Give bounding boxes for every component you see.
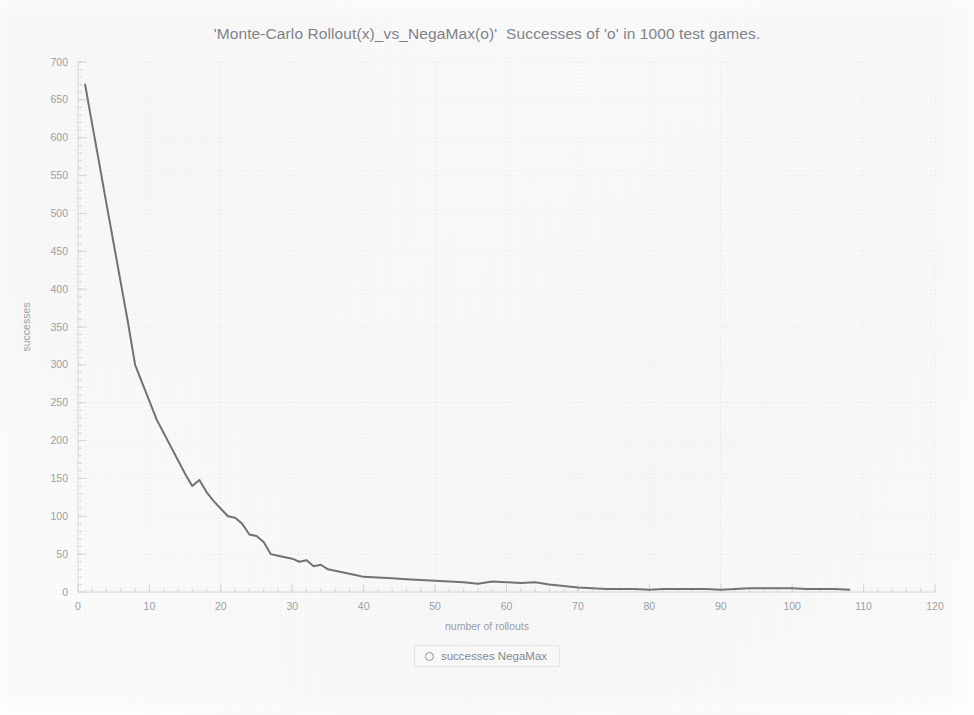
x-axis-title: number of rollouts	[445, 620, 529, 632]
y-axis-tick-label: 0	[62, 586, 68, 598]
y-axis-tick-label: 100	[50, 510, 68, 522]
y-axis-tick-label: 600	[50, 131, 68, 143]
y-axis-tick-label: 700	[50, 56, 68, 68]
legend-item-label: successes NegaMax	[441, 650, 547, 662]
x-axis-tick-label: 60	[501, 600, 513, 612]
chart-figure: 'Monte-Carlo Rollout(x)_vs_NegaMax(o)' S…	[0, 0, 974, 715]
y-axis-tick-label: 550	[50, 169, 68, 181]
x-axis-tick-label: 0	[75, 600, 81, 612]
x-axis-tick-label: 30	[286, 600, 298, 612]
y-axis-tick-label: 450	[50, 245, 68, 257]
chart-legend: successes NegaMax	[414, 645, 560, 667]
x-axis-tick-label: 120	[926, 600, 944, 612]
circle-open-marker-icon	[425, 652, 434, 661]
y-axis-tick-label: 200	[50, 434, 68, 446]
gridlines	[78, 62, 935, 592]
x-axis-tick-labels: 0102030405060708090100110120	[75, 600, 944, 612]
x-axis-tick-label: 110	[855, 600, 872, 612]
y-axis-tick-label: 150	[50, 472, 68, 484]
y-axis-tick-label: 50	[56, 548, 68, 560]
y-axis-tick-label: 350	[50, 321, 68, 333]
y-axis-tick-label: 500	[50, 207, 68, 219]
x-axis-tick-label: 40	[358, 600, 370, 612]
line-chart-plot: 0501001502002503003504004505005506006507…	[0, 0, 974, 715]
x-axis-tick-label: 100	[783, 600, 801, 612]
x-axis-tick-label: 80	[643, 600, 655, 612]
y-axis-tick-label: 300	[50, 358, 68, 370]
y-axis-tick-label: 250	[50, 396, 68, 408]
x-axis-tick-label: 20	[215, 600, 227, 612]
x-axis-tick-label: 70	[572, 600, 584, 612]
y-axis-tick-label: 650	[50, 93, 68, 105]
y-axis-title: successes	[20, 302, 32, 351]
y-axis-tick-labels: 0501001502002503003504004505005506006507…	[50, 56, 68, 598]
x-axis-tick-label: 50	[429, 600, 441, 612]
x-axis-tick-label: 90	[715, 600, 727, 612]
series-line	[85, 85, 849, 590]
data-series-successes-negamax	[85, 85, 849, 590]
y-axis-tick-label: 400	[50, 283, 68, 295]
x-axis-tick-label: 10	[144, 600, 156, 612]
